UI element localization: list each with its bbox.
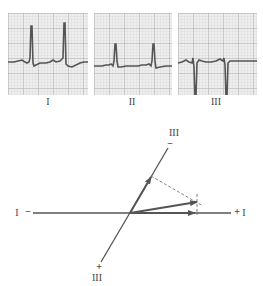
resultant-vector-arrow (130, 202, 197, 213)
lead-i-positive-label: I (239, 208, 249, 218)
lead-iii-negative-label: III (166, 128, 182, 138)
lead-iii-vector-arrow (130, 177, 151, 213)
lead-i-negative-sign: − (23, 207, 33, 217)
einthoven-vector-diagram (0, 0, 263, 286)
lead-i-negative-label: I (12, 208, 22, 218)
lead-iii-positive-label: III (89, 273, 105, 283)
lead-iii-negative-sign: − (164, 139, 176, 149)
lead-iii-positive-sign: + (94, 262, 104, 272)
